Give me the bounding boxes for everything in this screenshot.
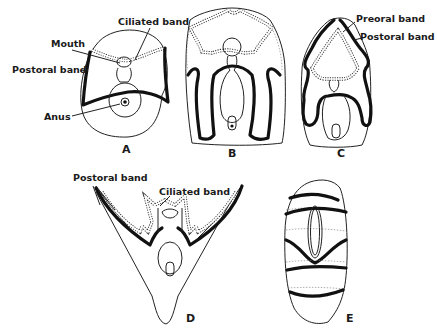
label-d-ciliated-band: Ciliated band — [159, 186, 230, 197]
label-c-postoral-band: Postoral band — [360, 31, 435, 42]
larval-stages-diagram: Ciliated band Mouth Postoral band Anus A… — [0, 0, 437, 329]
label-c-preoral-band: Preoral band — [356, 13, 425, 24]
label-a-ciliated-band: Ciliated band — [118, 16, 189, 27]
label-a-anus: Anus — [44, 111, 71, 122]
label-a-mouth: Mouth — [51, 38, 85, 49]
panel-b-larva — [186, 8, 286, 145]
panel-a-larva — [81, 30, 168, 137]
panel-label-c: C — [337, 147, 345, 160]
panel-d-larva — [96, 186, 242, 324]
panel-label-e: E — [346, 312, 354, 325]
panel-label-a: A — [122, 143, 131, 156]
label-a-postoral-band: Postoral band — [12, 64, 87, 75]
label-d-postoral-band: Postoral band — [73, 172, 148, 183]
panel-e-larva — [285, 180, 347, 323]
lead-a-anus — [72, 104, 120, 116]
panel-label-d: D — [186, 312, 195, 325]
panel-label-b: B — [228, 147, 236, 160]
